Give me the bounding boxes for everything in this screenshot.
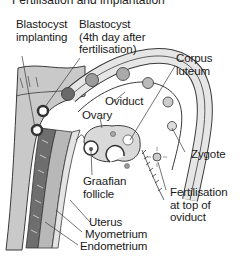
released-ovum xyxy=(125,164,130,169)
label-myometrium: Myometrium xyxy=(85,228,147,241)
label-zygote: Zygote xyxy=(191,148,226,161)
label-oviduct: Oviduct xyxy=(105,95,143,108)
label-blastocyst-implanting: Blastocyst implanting xyxy=(16,18,67,43)
ovary xyxy=(76,126,140,162)
label-ovary: Ovary xyxy=(82,109,112,122)
zygote-cell xyxy=(153,153,161,161)
label-corpus-luteum: Corpus luteum xyxy=(176,52,212,77)
label-endometrium: Endometrium xyxy=(80,240,147,253)
label-blastocyst-4th-day: Blastocyst (4th day after fertilisation) xyxy=(79,18,145,56)
label-fertilisation: Fertilisation at top of oviduct xyxy=(170,186,228,224)
label-uterus: Uterus xyxy=(89,216,122,229)
label-graafian-follicle: Graafian follicle xyxy=(83,175,126,200)
